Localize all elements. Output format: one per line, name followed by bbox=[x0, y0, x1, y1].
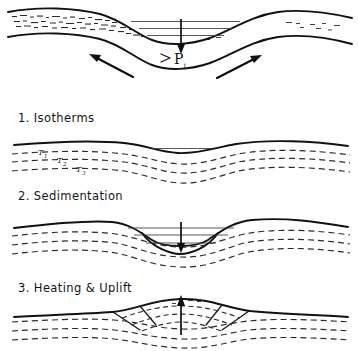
isotherm-label-2: T 2 bbox=[57, 156, 67, 167]
caption-heating-uplift: 3. Heating & Uplift bbox=[18, 281, 132, 295]
isotherm-label-3: T 3 bbox=[76, 165, 86, 176]
pressure-label-group: P 1 bbox=[174, 51, 187, 69]
geology-figure: P 1 1. Isotherms bbox=[0, 0, 358, 351]
isotherm-subscript-2: 2 bbox=[62, 161, 67, 167]
uplift-inner-right-fault bbox=[206, 305, 222, 325]
isotherm-label-1: T 1 bbox=[38, 148, 48, 159]
pressure-caret bbox=[161, 54, 170, 62]
pressure-subscript: 1 bbox=[183, 62, 187, 69]
isotherm-subscript-1: 1 bbox=[44, 153, 48, 159]
caption-isotherms: 1. Isotherms bbox=[18, 111, 94, 125]
panel-isotherms: 1. Isotherms T 1 T 2 T 3 bbox=[12, 111, 350, 183]
panel-sedimentation: 2. Sedimentation bbox=[12, 189, 350, 267]
extension-arrow-right bbox=[217, 55, 262, 78]
basin-formation-diagram: P 1 1. Isotherms bbox=[0, 0, 358, 351]
isotherm-subscript-3: 3 bbox=[82, 170, 86, 176]
pressure-label: P bbox=[174, 51, 183, 67]
caption-sedimentation: 2. Sedimentation bbox=[18, 189, 123, 203]
subsidence-arrow-top bbox=[177, 19, 185, 54]
panel-heating-uplift: 3. Heating & Uplift bbox=[12, 281, 350, 348]
uplift-inner-left-fault bbox=[140, 306, 156, 325]
crust-top-surface bbox=[8, 8, 352, 44]
subsidence-arrow-sedimentation bbox=[177, 222, 185, 253]
basin-fill-lines-top bbox=[131, 22, 240, 36]
extension-arrow-left bbox=[89, 54, 133, 77]
isotherm-line-3 bbox=[12, 167, 350, 183]
panel-extension: P 1 bbox=[8, 8, 352, 78]
upper-crust-stipple bbox=[12, 15, 340, 45]
uplift-right-fault bbox=[222, 311, 249, 330]
uplift-isotherm-3 bbox=[12, 337, 350, 348]
